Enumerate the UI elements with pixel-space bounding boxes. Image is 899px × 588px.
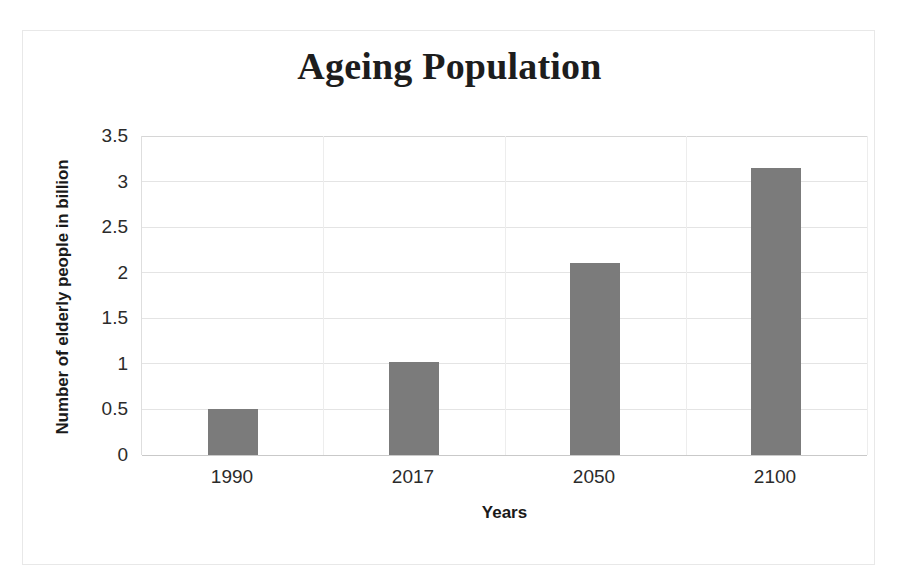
y-tick-label: 0 bbox=[117, 444, 128, 466]
bar-2050 bbox=[570, 263, 620, 455]
y-tick-label: 2.5 bbox=[102, 216, 128, 238]
y-tick-label: 3.5 bbox=[102, 125, 128, 147]
x-axis-title: Years bbox=[141, 503, 868, 523]
x-tick-label: 1990 bbox=[211, 466, 253, 488]
y-tick-label: 3 bbox=[117, 171, 128, 193]
category-separator bbox=[323, 136, 324, 455]
y-axis-tick-labels: 00.511.522.533.5 bbox=[82, 136, 132, 455]
x-tick-label: 2017 bbox=[392, 466, 434, 488]
x-tick-label: 2100 bbox=[754, 466, 796, 488]
y-axis-title-container: Number of elderly people in billion bbox=[48, 136, 78, 458]
chart-figure: Ageing Population Number of elderly peop… bbox=[0, 0, 899, 588]
y-tick-label: 2 bbox=[117, 262, 128, 284]
category-separator bbox=[686, 136, 687, 455]
x-tick-label: 2050 bbox=[573, 466, 615, 488]
y-axis-title: Number of elderly people in billion bbox=[53, 159, 73, 434]
x-axis-tick-labels: 1990201720502100 bbox=[141, 466, 868, 496]
plot-area bbox=[141, 136, 868, 455]
bar-1990 bbox=[208, 409, 258, 455]
y-tick-label: 1.5 bbox=[102, 307, 128, 329]
bar-2100 bbox=[751, 168, 801, 455]
bar-2017 bbox=[389, 362, 439, 455]
category-separator bbox=[505, 136, 506, 455]
chart-title: Ageing Population bbox=[0, 44, 899, 88]
y-tick-label: 0.5 bbox=[102, 398, 128, 420]
y-tick-label: 1 bbox=[117, 353, 128, 375]
